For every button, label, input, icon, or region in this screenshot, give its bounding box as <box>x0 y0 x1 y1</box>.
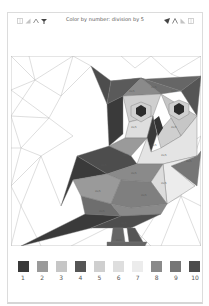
palette-swatch[interactable]: 6 <box>112 261 126 281</box>
right-toolbar <box>164 18 194 24</box>
svg-text:20/5: 20/5 <box>123 154 129 157</box>
svg-text:20/5: 20/5 <box>116 239 122 242</box>
palette-swatch[interactable]: 1 <box>16 261 30 281</box>
swatch-color[interactable] <box>113 261 124 272</box>
palette-swatch[interactable]: 5 <box>92 261 106 281</box>
color-palette: 1 2 3 4 5 6 7 8 9 10 <box>16 261 202 281</box>
svg-text:20/5: 20/5 <box>151 144 157 147</box>
swatch-color[interactable] <box>151 261 162 272</box>
svg-text:20/5: 20/5 <box>95 190 101 193</box>
swatch-color[interactable] <box>37 261 48 272</box>
svg-text:20/5: 20/5 <box>131 172 137 175</box>
svg-text:20/5: 20/5 <box>186 160 192 163</box>
triangle-icon[interactable] <box>180 18 186 24</box>
grid-icon[interactable] <box>188 18 194 24</box>
palette-swatch[interactable]: 7 <box>131 261 145 281</box>
svg-text:20/5: 20/5 <box>121 222 127 225</box>
svg-text:20/5: 20/5 <box>129 90 135 93</box>
paint-bucket-icon[interactable] <box>164 18 170 24</box>
header: Color by number: division by 5 <box>8 13 202 29</box>
palette-swatch[interactable]: 10 <box>188 261 202 281</box>
swatch-color[interactable] <box>18 261 29 272</box>
svg-text:20/5: 20/5 <box>161 182 167 185</box>
pencil-icon[interactable] <box>172 18 178 24</box>
coloring-card: Color by number: division by 5 <box>7 12 203 304</box>
swatch-color[interactable] <box>189 261 200 272</box>
swatch-color[interactable] <box>94 261 105 272</box>
palette-swatch[interactable]: 8 <box>150 261 164 281</box>
owl-artwork[interactable]: 20/520/520/5 20/520/520/5 20/520/520/5 2… <box>11 56 201 246</box>
svg-text:20/5: 20/5 <box>161 154 167 157</box>
palette-swatch[interactable]: 9 <box>169 261 183 281</box>
svg-text:20/5: 20/5 <box>131 126 137 129</box>
palette-swatch[interactable]: 3 <box>54 261 68 281</box>
swatch-color[interactable] <box>170 261 181 272</box>
svg-text:20/5: 20/5 <box>101 164 107 167</box>
svg-text:20/5: 20/5 <box>99 210 105 213</box>
swatch-color[interactable] <box>132 261 143 272</box>
swatch-color[interactable] <box>56 261 67 272</box>
svg-text:20/5: 20/5 <box>141 194 147 197</box>
svg-text:20/5: 20/5 <box>171 90 177 93</box>
palette-swatch[interactable]: 2 <box>35 261 49 281</box>
swatch-color[interactable] <box>75 261 86 272</box>
palette-swatch[interactable]: 4 <box>73 261 87 281</box>
svg-text:20/5: 20/5 <box>151 86 157 89</box>
svg-text:20/5: 20/5 <box>171 126 177 129</box>
